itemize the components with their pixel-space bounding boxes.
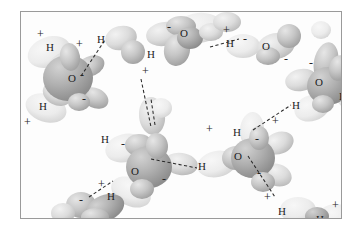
partial-charge-negative: - (162, 173, 166, 185)
partial-charge-positive: + (223, 24, 230, 36)
atom-label-o: O (180, 28, 188, 39)
partial-charge-positive: + (24, 116, 31, 128)
partial-charge-negative: - (309, 57, 313, 69)
atom-label-o: O (68, 73, 76, 84)
atom-label-h: H (316, 214, 324, 219)
partial-charge-positive: + (206, 123, 213, 135)
partial-charge-positive: + (98, 178, 105, 190)
partial-charge-negative: - (80, 69, 84, 81)
atom-label-h: H (101, 134, 109, 145)
atom-label-o: O (234, 151, 242, 162)
partial-charge-negative: - (257, 167, 261, 179)
figure-canvas: HHOHOHHOOHHHOHOHHHH ++--+-++---+--+--++-… (0, 0, 361, 237)
partial-charge-negative: - (79, 194, 83, 206)
molecule-graphics (21, 12, 341, 218)
partial-charge-positive: + (264, 191, 271, 203)
partial-charge-negative: - (243, 33, 247, 45)
atom-label-h: H (278, 206, 286, 217)
partial-charge-negative: - (167, 21, 171, 33)
atom-label-o: O (315, 77, 323, 88)
partial-charge-positive: + (142, 65, 149, 77)
atom-label-h: H (233, 127, 241, 138)
partial-charge-positive: + (76, 38, 83, 50)
molecule-right (283, 40, 341, 126)
atom-label-h: H (39, 101, 47, 112)
atom-label-h: H (107, 191, 115, 202)
atom-label-h: H (198, 161, 206, 172)
atom-label-o: O (131, 166, 139, 177)
atom-label-h: H (292, 100, 300, 111)
partial-charge-negative: - (255, 133, 259, 145)
figure-frame: HHOHOHHOOHHHOHOHHHH ++--+-++---+--+--++-… (20, 11, 342, 219)
molecule-top-centre (144, 12, 224, 68)
partial-charge-positive: + (272, 115, 279, 127)
partial-charge-negative: - (284, 53, 288, 65)
partial-charge-negative: - (121, 138, 125, 150)
atom-label-o: O (262, 41, 270, 52)
atom-label-h: H (339, 91, 342, 102)
atom-label-h: H (97, 34, 105, 45)
partial-charge-positive: + (332, 199, 339, 211)
partial-charge-positive: + (37, 28, 44, 40)
atom-label-h: H (226, 38, 234, 49)
atom-label-h: H (46, 42, 54, 53)
atom-label-h: H (147, 49, 155, 60)
partial-charge-negative: - (82, 93, 86, 105)
